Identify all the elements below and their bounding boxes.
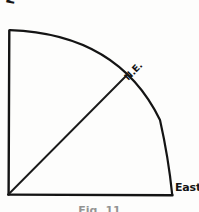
northeast-radius-line xyxy=(9,75,128,195)
north-axis-line xyxy=(9,31,10,195)
east-axis-line xyxy=(8,195,172,196)
east-label: East xyxy=(175,182,199,193)
compass-quadrant-figure: North N.E. East Fig. 11 xyxy=(0,0,199,212)
figure-caption-clipped: Fig. 11 xyxy=(0,205,199,212)
diagram-canvas xyxy=(0,0,199,212)
